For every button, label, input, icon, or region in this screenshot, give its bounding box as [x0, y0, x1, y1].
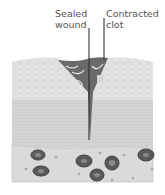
wound-healing-diagram	[0, 0, 165, 195]
dermis-layer	[12, 95, 153, 148]
